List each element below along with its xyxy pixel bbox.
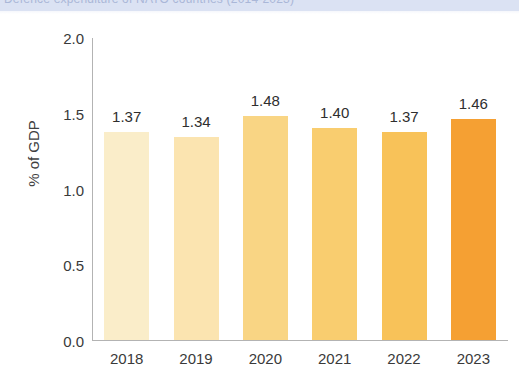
x-tick-label: 2019 [179,350,212,367]
bar-value-label: 1.37 [389,108,418,125]
title-strip-fade [0,8,519,14]
bar-value-label: 1.34 [181,113,210,130]
title-strip-text: Defence expenditure of NATO countries (2… [4,0,294,5]
x-tick-label: 2023 [457,350,490,367]
bar-group[interactable]: 1.482020 [243,37,288,340]
bar[interactable]: 1.40 [312,128,357,340]
y-tick-label: 1.0 [63,181,84,198]
y-tick-label: 0.5 [63,257,84,274]
bar-group[interactable]: 1.342019 [174,37,219,340]
bar[interactable]: 1.46 [451,119,496,340]
bar-group[interactable]: 1.462023 [451,37,496,340]
bar-value-label: 1.40 [320,104,349,121]
y-tick-label: 2.0 [63,30,84,47]
y-tick-label: 0.0 [63,333,84,350]
gridline [93,189,508,191]
bar[interactable]: 1.37 [104,132,149,340]
bar[interactable]: 1.37 [382,132,427,340]
bar-value-label: 1.37 [112,108,141,125]
plot-area: 0.00.51.01.52.0 1.3720181.3420191.482020… [92,38,508,341]
bar-group[interactable]: 1.402021 [312,37,357,340]
x-tick-label: 2020 [249,350,282,367]
x-axis-spine [92,340,508,341]
gridline [93,113,508,115]
y-axis-label: % of GDP [25,99,42,209]
bar[interactable]: 1.34 [174,137,219,340]
x-tick-label: 2018 [110,350,143,367]
chart-figure: Defence expenditure of NATO countries (2… [0,0,519,390]
bar-value-label: 1.48 [251,92,280,109]
bar-group[interactable]: 1.372018 [104,37,149,340]
bar-value-label: 1.46 [459,95,488,112]
y-tick-label: 1.5 [63,105,84,122]
x-tick-label: 2022 [387,350,420,367]
x-tick-label: 2021 [318,350,351,367]
gridline [93,264,508,266]
bar-group[interactable]: 1.372022 [382,37,427,340]
bar[interactable]: 1.48 [243,116,288,340]
